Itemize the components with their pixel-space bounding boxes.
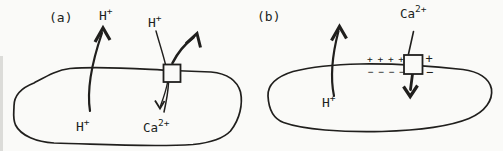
panel-a-proton-pump-arrow bbox=[89, 33, 102, 111]
panel-a-proton-inside-label: H+ bbox=[76, 116, 90, 134]
figure-canvas: (a) H+ H+ H+ Ca2+ + + + + + − − − − − (b… bbox=[0, 0, 503, 151]
panel-b-transporter-square bbox=[404, 55, 423, 74]
panel-a-antiport-proton-sup: + bbox=[156, 12, 162, 23]
panel-a-antiport-proton-line-outer bbox=[156, 31, 166, 65]
panel-a-proton-out-label: H+ bbox=[99, 5, 113, 23]
panel-b: + + + + + − − − − − (b) H+ Ca2+ bbox=[257, 3, 492, 132]
panel-a-antiport-proton-label: H+ bbox=[148, 12, 162, 30]
panel-a-antiport-proton-base: H bbox=[148, 15, 156, 30]
panel-a-proton-inside-base: H bbox=[76, 119, 84, 134]
panel-a-calcium-base: Ca bbox=[143, 120, 158, 135]
panel-b-calcium-base: Ca bbox=[400, 6, 415, 21]
panel-b-charges-outside-row: + + + + bbox=[367, 53, 404, 64]
panel-a-antiport-proton-arrowhead bbox=[155, 101, 165, 109]
panel-a-proton-pump-arrowhead bbox=[95, 28, 110, 42]
panel-a-proton-out-base: H bbox=[99, 8, 107, 23]
panel-a: (a) H+ H+ H+ Ca2+ bbox=[14, 5, 242, 146]
panel-a-label: (a) bbox=[49, 10, 72, 25]
panel-a-transporter-square bbox=[164, 65, 181, 83]
panel-b-proton-inside-base: H bbox=[322, 95, 330, 110]
panel-a-calcium-sup: 2+ bbox=[158, 117, 170, 128]
panel-b-charge-inside-single: − bbox=[426, 65, 433, 79]
panel-b-charges-inside-row: − − − − bbox=[368, 66, 405, 77]
panel-b-calcium-label: Ca2+ bbox=[400, 3, 427, 21]
panel-b-calcium-in-arrow bbox=[411, 74, 413, 90]
panel-b-proton-pump-arrowhead bbox=[332, 27, 347, 41]
panel-a-calcium-out-arrowhead bbox=[186, 34, 201, 48]
panel-b-charge-outside-single: + bbox=[426, 52, 433, 66]
panel-b-calcium-sup: 2+ bbox=[415, 3, 427, 14]
panel-b-proton-inside-sup: + bbox=[330, 92, 336, 103]
panel-a-proton-inside-sup: + bbox=[84, 116, 90, 127]
panel-b-calcium-in-line bbox=[409, 32, 414, 55]
panel-b-label: (b) bbox=[257, 9, 280, 24]
panel-a-cell-outline bbox=[14, 68, 242, 146]
scan-edge-artifact bbox=[0, 56, 3, 151]
panel-a-calcium-label: Ca2+ bbox=[143, 117, 170, 135]
panel-b-proton-inside-label: H+ bbox=[322, 92, 336, 110]
panel-a-proton-out-sup: + bbox=[107, 5, 113, 16]
